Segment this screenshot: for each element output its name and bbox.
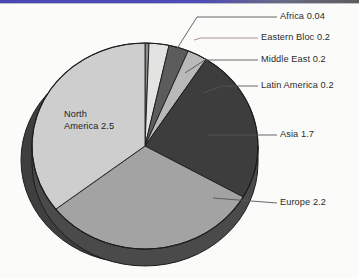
slice-label-north-america-line1: North [64, 109, 114, 121]
slice-label-north-america-line2: America 2.5 [64, 121, 114, 133]
pie-chart: North America 2.5 Africa 0.04 Eastern Bl… [0, 0, 359, 279]
slice-label-europe: Europe 2.2 [280, 197, 326, 208]
leader-line-eastern-bloc [194, 38, 258, 40]
slice-label-north-america: North America 2.5 [64, 109, 114, 132]
screenshot-root: North America 2.5 Africa 0.04 Eastern Bl… [0, 0, 359, 279]
slice-label-asia: Asia 1.7 [280, 129, 314, 140]
slice-label-middle-east: Middle East 0.2 [261, 54, 326, 65]
slice-label-eastern-bloc: Eastern Bloc 0.2 [261, 32, 330, 43]
slice-label-latin-america: Latin America 0.2 [261, 80, 334, 91]
slice-label-africa: Africa 0.04 [280, 11, 325, 22]
